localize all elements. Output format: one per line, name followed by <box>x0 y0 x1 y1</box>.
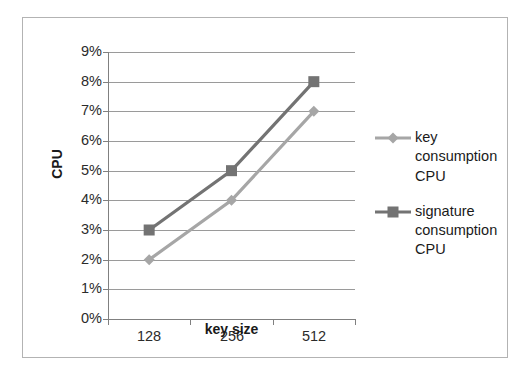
legend-entry[interactable]: signature consumption CPU <box>375 202 505 260</box>
y-axis-title: CPU <box>49 149 65 179</box>
y-axis-tick-label: 1% <box>68 281 102 296</box>
y-axis-tick-label: 6% <box>68 133 102 148</box>
legend-label: signature consumption CPU <box>415 202 505 260</box>
legend-entry[interactable]: key consumption CPU <box>375 128 505 186</box>
legend-label: key consumption CPU <box>415 128 505 186</box>
x-axis-title: key size <box>108 321 355 337</box>
x-axis-line <box>108 319 356 320</box>
x-axis-tick-labels: 128256512 <box>108 52 355 319</box>
x-axis-tick <box>355 319 356 325</box>
y-axis-title-container: CPU <box>48 52 68 319</box>
chart-legend: key consumption CPUsignature consumption… <box>375 128 505 276</box>
legend-diamond-marker-icon <box>375 130 411 146</box>
chart-frame: CPU 0%1%2%3%4%5%6%7%8%9% 128256512 key s… <box>22 17 508 358</box>
y-axis-tick-label: 7% <box>68 103 102 118</box>
y-axis-tick-label: 2% <box>68 252 102 267</box>
y-axis-tick-label: 9% <box>68 44 102 59</box>
y-axis-tick-label: 3% <box>68 222 102 237</box>
y-axis-tick-label: 5% <box>68 163 102 178</box>
y-axis-tick-labels: 0%1%2%3%4%5%6%7%8%9% <box>66 52 102 319</box>
y-axis-tick-label: 8% <box>68 74 102 89</box>
y-axis-tick-label: 4% <box>68 192 102 207</box>
legend-square-marker-icon <box>375 204 411 220</box>
y-axis-tick-label: 0% <box>68 311 102 326</box>
chart-screenshot: CPU 0%1%2%3%4%5%6%7%8%9% 128256512 key s… <box>0 0 529 381</box>
